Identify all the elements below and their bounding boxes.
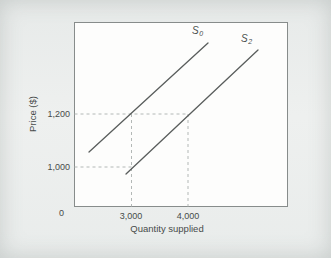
x-axis-title: Quantity supplied	[97, 224, 237, 234]
y-tick-1200: 1,200	[36, 109, 70, 119]
figure-page: Price ($) 1,200 1,000 0 3,000 4,000 Quan…	[0, 0, 331, 258]
x-tick-3000: 3,000	[111, 211, 151, 221]
curve-label-s2-base: S	[241, 33, 248, 44]
origin-label: 0	[59, 208, 64, 218]
curve-label-s0-subscript: 0	[199, 30, 203, 37]
x-tick-4000: 4,000	[168, 211, 208, 221]
plot-area	[74, 22, 288, 207]
curve-label-s2: S2	[241, 33, 252, 45]
curve-label-s0: S0	[192, 25, 203, 37]
y-tick-1000: 1,000	[36, 162, 70, 172]
curve-label-s0-base: S	[192, 25, 199, 36]
curve-label-s2-subscript: 2	[248, 38, 252, 45]
